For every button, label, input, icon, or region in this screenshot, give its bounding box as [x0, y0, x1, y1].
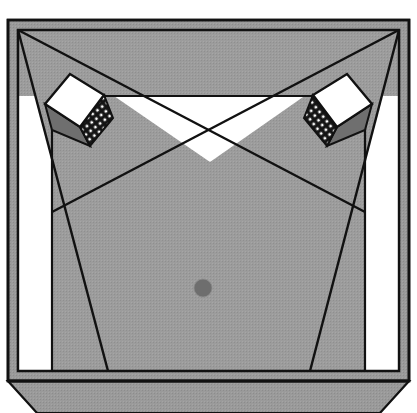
listening-position-dot[interactable]: [194, 279, 212, 297]
figure-root: [0, 0, 417, 413]
room-coverage-diagram: [0, 0, 417, 413]
bottom-bay: [8, 381, 409, 413]
